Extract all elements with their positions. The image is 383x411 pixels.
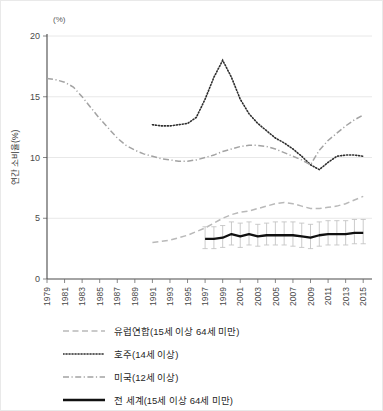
x-tick-label: 2013 bbox=[341, 287, 351, 306]
y-axis-title: 연간 소비율(%) bbox=[10, 130, 20, 186]
x-tick-label: 2005 bbox=[271, 287, 281, 306]
legend-swatch-dotted bbox=[63, 348, 105, 360]
x-tick-label: 2003 bbox=[253, 287, 263, 306]
x-tick-label: 1987 bbox=[112, 287, 122, 306]
legend-item-australia: 호주(14세 이상) bbox=[1, 342, 383, 365]
y-tick-label: 5 bbox=[35, 213, 40, 223]
x-tick-label: 1983 bbox=[77, 287, 87, 306]
series-line-australia bbox=[152, 60, 363, 169]
legend-item-world: 전 세계(15세 이상 64세 미만) bbox=[1, 388, 383, 411]
chart-figure: · · · · · · · · · · · · · · · · (%)05101… bbox=[0, 0, 383, 411]
y-tick-label: 0 bbox=[35, 274, 40, 284]
legend-item-eu: 유럽연합(15세 이상 64세 미만) bbox=[1, 319, 383, 342]
legend-item-usa: 미국(12세 이상) bbox=[1, 365, 383, 388]
x-tick-label: 1985 bbox=[95, 287, 105, 306]
y-axis-unit-label: (%) bbox=[53, 15, 66, 24]
legend-label-world: 전 세계(15세 이상 64세 미만) bbox=[114, 393, 233, 407]
legend-swatch-solid bbox=[63, 394, 105, 406]
x-tick-label: 1989 bbox=[130, 287, 140, 306]
series-line-usa bbox=[47, 79, 363, 165]
plot-area: (%)05101520연간 소비율(%)19791981198319851987… bbox=[1, 10, 383, 310]
x-tick-label: 1981 bbox=[60, 287, 70, 306]
line-chart: (%)05101520연간 소비율(%)19791981198319851987… bbox=[1, 10, 383, 310]
legend-swatch-dash-dot bbox=[63, 371, 105, 383]
x-tick-label: 1997 bbox=[200, 287, 210, 306]
legend-label-eu: 유럽연합(15세 이상 64세 미만) bbox=[114, 324, 239, 338]
x-tick-label: 1993 bbox=[165, 287, 175, 306]
x-tick-label: 2001 bbox=[235, 287, 245, 306]
x-tick-label: 1979 bbox=[42, 287, 52, 306]
legend-label-usa: 미국(12세 이상) bbox=[114, 370, 179, 384]
y-tick-label: 20 bbox=[30, 31, 40, 41]
x-tick-label: 1995 bbox=[183, 287, 193, 306]
x-tick-label: 1991 bbox=[148, 287, 158, 306]
legend-label-australia: 호주(14세 이상) bbox=[114, 347, 179, 361]
x-tick-label: 1999 bbox=[218, 287, 228, 306]
x-tick-label: 2015 bbox=[358, 287, 368, 306]
y-tick-label: 15 bbox=[30, 92, 40, 102]
x-tick-label: 2011 bbox=[323, 287, 333, 306]
x-tick-label: 2007 bbox=[288, 287, 298, 306]
x-tick-label: 2009 bbox=[306, 287, 316, 306]
legend-swatch-dashed bbox=[63, 325, 105, 337]
cropped-text-strip: · · · · · · · · · · · · · · · · bbox=[1, 1, 383, 10]
cropped-text: · · · · · · · · · · · · · · · · bbox=[7, 1, 300, 4]
chart-legend: 유럽연합(15세 이상 64세 미만) 호주(14세 이상) 미국(12세 이상… bbox=[1, 319, 383, 411]
y-tick-label: 10 bbox=[30, 153, 40, 163]
